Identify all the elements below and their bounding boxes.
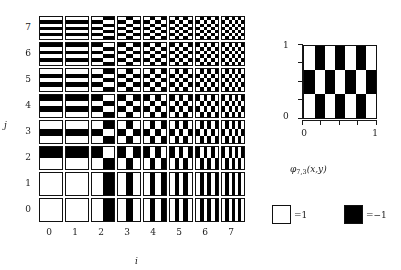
walsh-cell-canvas bbox=[118, 199, 140, 221]
walsh-cell-2-3[interactable] bbox=[91, 120, 115, 144]
walsh-cell-2-1[interactable] bbox=[91, 172, 115, 196]
walsh-cell-3-3[interactable] bbox=[117, 120, 141, 144]
walsh-cell-4-6[interactable] bbox=[143, 42, 167, 66]
walsh-cell-canvas bbox=[222, 17, 244, 39]
walsh-cell-canvas bbox=[222, 147, 244, 169]
walsh-cell-canvas bbox=[66, 43, 88, 65]
walsh-cell-4-7[interactable] bbox=[143, 16, 167, 40]
walsh-cell-canvas bbox=[118, 173, 140, 195]
walsh-cell-7-6[interactable] bbox=[221, 42, 245, 66]
black-swatch-icon bbox=[344, 205, 363, 224]
walsh-cell-0-7[interactable] bbox=[39, 16, 63, 40]
walsh-cell-canvas bbox=[92, 199, 114, 221]
walsh-cell-7-0[interactable] bbox=[221, 198, 245, 222]
walsh-cell-5-3[interactable] bbox=[169, 120, 193, 144]
walsh-cell-1-3[interactable] bbox=[65, 120, 89, 144]
axis-tick bbox=[298, 62, 303, 63]
walsh-cell-canvas bbox=[222, 173, 244, 195]
walsh-cell-7-5[interactable] bbox=[221, 68, 245, 92]
walsh-cell-1-1[interactable] bbox=[65, 172, 89, 196]
walsh-cell-1-4[interactable] bbox=[65, 94, 89, 118]
walsh-cell-canvas bbox=[144, 147, 166, 169]
walsh-cell-2-5[interactable] bbox=[91, 68, 115, 92]
detail-x-tick-left: 0 bbox=[299, 128, 309, 138]
walsh-cell-7-3[interactable] bbox=[221, 120, 245, 144]
walsh-cell-1-2[interactable] bbox=[65, 146, 89, 170]
walsh-cell-1-0[interactable] bbox=[65, 198, 89, 222]
walsh-cell-5-6[interactable] bbox=[169, 42, 193, 66]
walsh-cell-6-4[interactable] bbox=[195, 94, 219, 118]
walsh-basis-figure: 76543210 01234567 j i 1 0 0 1 φ7,3(x,y) … bbox=[0, 0, 401, 270]
walsh-cell-6-2[interactable] bbox=[195, 146, 219, 170]
grid-x-tick-2: 2 bbox=[94, 228, 108, 237]
walsh-cell-4-2[interactable] bbox=[143, 146, 167, 170]
walsh-cell-1-7[interactable] bbox=[65, 16, 89, 40]
grid-y-tick-3: 3 bbox=[17, 127, 31, 136]
walsh-grid-panel bbox=[37, 14, 247, 224]
walsh-cell-5-5[interactable] bbox=[169, 68, 193, 92]
walsh-cell-canvas bbox=[196, 43, 218, 65]
walsh-cell-3-0[interactable] bbox=[117, 198, 141, 222]
walsh-cell-canvas bbox=[196, 147, 218, 169]
walsh-cell-canvas bbox=[40, 69, 62, 91]
walsh-cell-4-4[interactable] bbox=[143, 94, 167, 118]
walsh-cell-2-6[interactable] bbox=[91, 42, 115, 66]
walsh-cell-3-2[interactable] bbox=[117, 146, 141, 170]
axis-tick bbox=[302, 120, 303, 125]
grid-x-tick-1: 1 bbox=[68, 228, 82, 237]
walsh-cell-0-1[interactable] bbox=[39, 172, 63, 196]
walsh-cell-6-5[interactable] bbox=[195, 68, 219, 92]
walsh-cell-0-6[interactable] bbox=[39, 42, 63, 66]
walsh-cell-canvas bbox=[66, 147, 88, 169]
walsh-cell-7-4[interactable] bbox=[221, 94, 245, 118]
walsh-cell-2-0[interactable] bbox=[91, 198, 115, 222]
walsh-cell-4-5[interactable] bbox=[143, 68, 167, 92]
walsh-cell-0-5[interactable] bbox=[39, 68, 63, 92]
grid-row bbox=[39, 172, 245, 196]
walsh-cell-5-1[interactable] bbox=[169, 172, 193, 196]
walsh-cell-7-2[interactable] bbox=[221, 146, 245, 170]
walsh-cell-5-0[interactable] bbox=[169, 198, 193, 222]
walsh-cell-6-3[interactable] bbox=[195, 120, 219, 144]
walsh-cell-7-1[interactable] bbox=[221, 172, 245, 196]
walsh-cell-6-1[interactable] bbox=[195, 172, 219, 196]
caption-arguments: (x,y) bbox=[307, 164, 327, 174]
walsh-cell-canvas bbox=[118, 43, 140, 65]
walsh-cell-5-7[interactable] bbox=[169, 16, 193, 40]
walsh-cell-3-1[interactable] bbox=[117, 172, 141, 196]
walsh-cell-4-3[interactable] bbox=[143, 120, 167, 144]
axis-tick bbox=[298, 99, 303, 100]
walsh-cell-3-7[interactable] bbox=[117, 16, 141, 40]
walsh-cell-2-7[interactable] bbox=[91, 16, 115, 40]
walsh-cell-canvas bbox=[92, 17, 114, 39]
walsh-cell-5-2[interactable] bbox=[169, 146, 193, 170]
walsh-cell-0-3[interactable] bbox=[39, 120, 63, 144]
walsh-cell-2-2[interactable] bbox=[91, 146, 115, 170]
walsh-cell-6-7[interactable] bbox=[195, 16, 219, 40]
grid-y-tick-7: 7 bbox=[17, 23, 31, 32]
grid-x-tick-3: 3 bbox=[120, 228, 134, 237]
walsh-cell-3-6[interactable] bbox=[117, 42, 141, 66]
walsh-cell-4-0[interactable] bbox=[143, 198, 167, 222]
grid-y-tick-5: 5 bbox=[17, 75, 31, 84]
walsh-cell-canvas bbox=[92, 147, 114, 169]
walsh-cell-0-4[interactable] bbox=[39, 94, 63, 118]
walsh-cell-3-5[interactable] bbox=[117, 68, 141, 92]
walsh-cell-1-6[interactable] bbox=[65, 42, 89, 66]
walsh-cell-0-2[interactable] bbox=[39, 146, 63, 170]
walsh-cell-5-4[interactable] bbox=[169, 94, 193, 118]
walsh-cell-1-5[interactable] bbox=[65, 68, 89, 92]
walsh-cell-7-7[interactable] bbox=[221, 16, 245, 40]
walsh-cell-3-4[interactable] bbox=[117, 94, 141, 118]
white-swatch-icon bbox=[272, 205, 291, 224]
grid-y-tick-6: 6 bbox=[17, 49, 31, 58]
walsh-cell-6-6[interactable] bbox=[195, 42, 219, 66]
walsh-cell-2-4[interactable] bbox=[91, 94, 115, 118]
walsh-cell-canvas bbox=[66, 17, 88, 39]
walsh-cell-4-1[interactable] bbox=[143, 172, 167, 196]
axis-tick bbox=[298, 81, 303, 82]
grid-row bbox=[39, 94, 245, 118]
walsh-cell-6-0[interactable] bbox=[195, 198, 219, 222]
walsh-cell-canvas bbox=[92, 69, 114, 91]
walsh-cell-0-0[interactable] bbox=[39, 198, 63, 222]
